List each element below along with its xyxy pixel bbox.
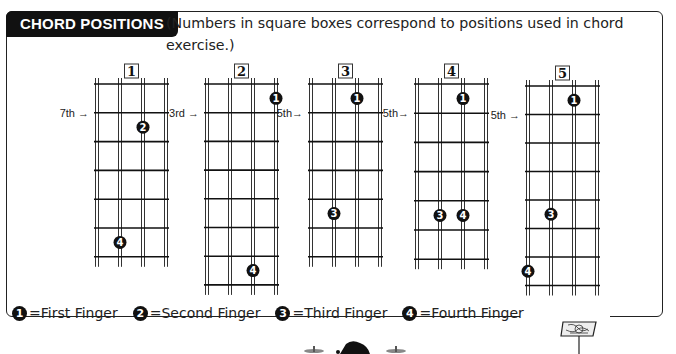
chord-diagram: 55th →134 [491, 66, 600, 296]
position-number: 3 [341, 64, 350, 79]
chord-diagram: 45th→134 [383, 64, 489, 270]
position-marker: 5th → [491, 109, 520, 121]
chord-diagrams: 17th →2423rd →1435th→1345th→13455th →134 [0, 0, 676, 354]
position-number: 2 [237, 64, 246, 79]
legend-item: 4 =Fourth Finger [402, 305, 523, 321]
legend-label: =Fourth Finger [419, 305, 523, 321]
drum-kit-icon [300, 340, 420, 354]
finger-number: 2 [140, 122, 147, 133]
finger-number: 1 [354, 93, 361, 104]
legend-label: =Third Finger [292, 305, 387, 321]
position-marker: 5th→ [277, 107, 303, 119]
finger-number: 4 [460, 210, 467, 221]
legend-item: 3 =Third Finger [275, 305, 387, 321]
position-marker: 7th → [60, 107, 89, 119]
finger-1-icon: 1 [12, 306, 27, 321]
finger-number: 4 [250, 265, 257, 276]
position-number: 5 [558, 66, 567, 81]
legend-label: =Second Finger [150, 305, 261, 321]
finger-number: 4 [525, 266, 532, 277]
music-stand-icon [560, 320, 600, 354]
legend-item: 2 =Second Finger [133, 305, 261, 321]
chord-diagram: 17th →24 [60, 64, 169, 267]
chord-diagram: 23rd →14 [169, 64, 282, 295]
finger-legend: 1 =First Finger 2 =Second Finger 3 =Thir… [12, 305, 539, 321]
finger-3-icon: 3 [275, 306, 290, 321]
finger-number: 3 [548, 209, 555, 220]
finger-2-icon: 2 [133, 306, 148, 321]
finger-4-icon: 4 [402, 306, 417, 321]
finger-number: 1 [571, 95, 578, 106]
finger-number: 1 [460, 93, 467, 104]
finger-number: 3 [331, 208, 338, 219]
finger-number: 1 [273, 93, 280, 104]
position-number: 1 [127, 64, 136, 79]
legend-label: =First Finger [29, 305, 118, 321]
chord-diagram: 35th→13 [277, 64, 383, 267]
position-marker: 5th→ [383, 107, 409, 119]
position-marker: 3rd → [169, 107, 199, 119]
position-number: 4 [447, 64, 456, 79]
finger-number: 3 [437, 210, 444, 221]
finger-number: 4 [117, 237, 124, 248]
legend-item: 1 =First Finger [12, 305, 118, 321]
